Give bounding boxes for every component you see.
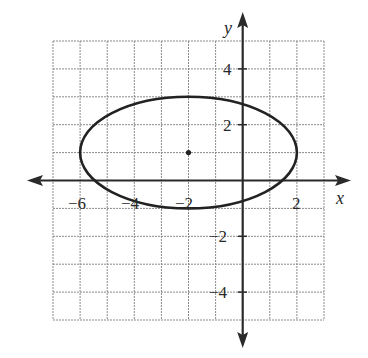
- y-tick-label: 4: [223, 60, 232, 79]
- y-axis-label: y: [222, 18, 232, 38]
- x-tick-label: 2: [292, 194, 301, 213]
- coordinate-plane: y x −6 −4 −2 2 4 2 −2 −4: [0, 0, 368, 358]
- x-axis-label: x: [335, 188, 344, 208]
- y-tick-label: 2: [223, 116, 232, 135]
- y-tick-label: −4: [209, 283, 228, 302]
- x-tick-label: −2: [175, 194, 193, 213]
- x-tick-label: −4: [121, 194, 140, 213]
- y-tick-label: −2: [209, 227, 227, 246]
- x-tick-label: −6: [68, 194, 86, 213]
- center-point: [186, 150, 191, 155]
